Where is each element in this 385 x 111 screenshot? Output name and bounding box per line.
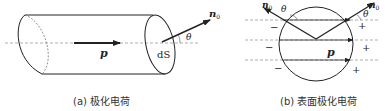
label-n0-left: n0	[262, 0, 273, 11]
positive-charge: +	[352, 64, 360, 75]
positive-charge: +	[358, 20, 366, 31]
caption-a: (a) 极化电荷	[73, 93, 130, 108]
label-theta-a: θ	[186, 32, 192, 42]
left-end-front	[18, 15, 42, 74]
negative-charge: −	[265, 42, 273, 53]
label-theta-right: θ	[363, 9, 369, 19]
panel-a-cylinder	[5, 12, 210, 77]
negative-charge: −	[270, 22, 278, 33]
sphere-outline	[279, 7, 353, 81]
left-end-back	[25, 15, 48, 74]
label-theta-left: θ	[281, 4, 287, 14]
label-n0-right: n0	[369, 0, 380, 11]
label-p-b: p	[327, 46, 335, 59]
label-ds: dS	[157, 49, 170, 60]
label-n0-a: n0	[209, 8, 220, 20]
label-p-a: p	[100, 47, 108, 60]
right-end-ellipse	[140, 12, 180, 77]
angle-arc	[179, 35, 181, 43]
caption-b: (b) 表面极化电荷	[280, 93, 357, 108]
positive-charge: +	[362, 42, 370, 53]
negative-charge: −	[274, 63, 282, 74]
